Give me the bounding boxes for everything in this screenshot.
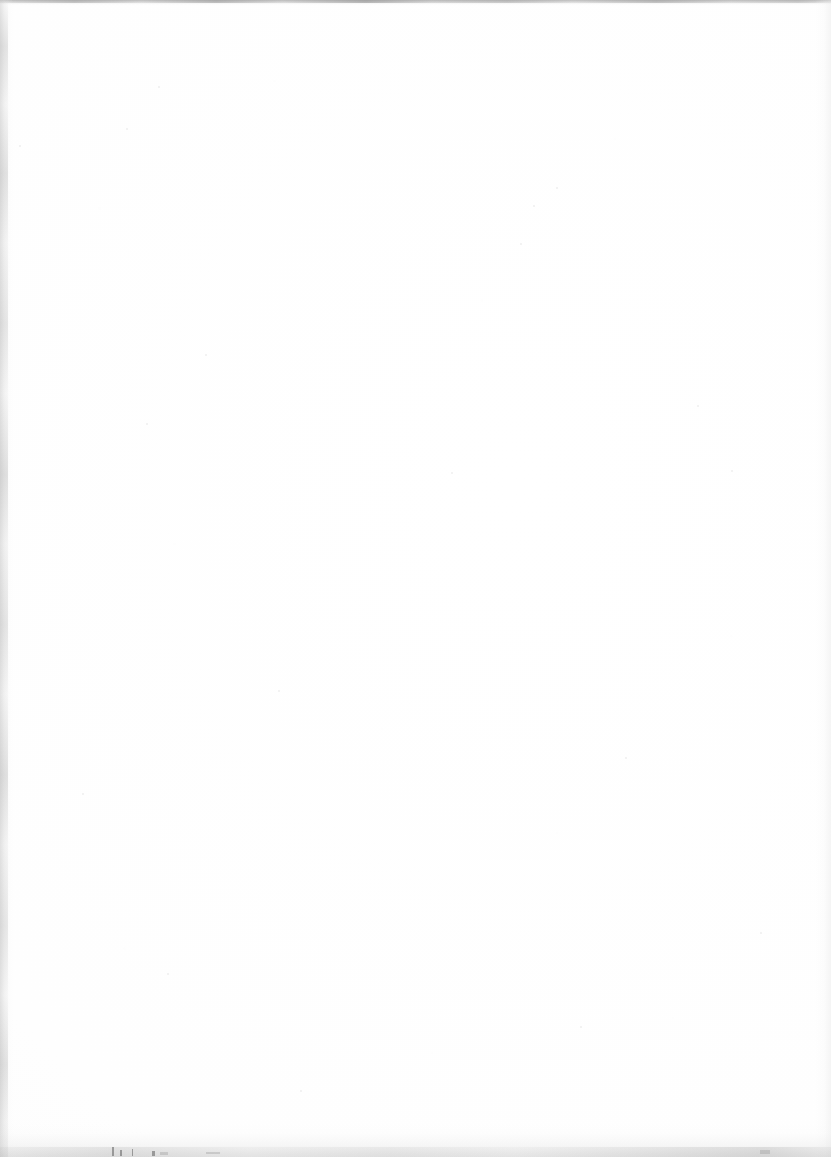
- dust-speck: [580, 1026, 582, 1028]
- page-content-area: [72, 70, 762, 1080]
- dust-speck: [205, 354, 207, 356]
- dust-speck: [19, 145, 21, 147]
- dust-speck: [300, 1090, 302, 1092]
- edge-mark: [760, 1150, 770, 1154]
- right-scan-falloff: [815, 0, 831, 1157]
- edge-mark: [152, 1151, 155, 1156]
- dust-speck: [533, 205, 535, 207]
- edge-mark: [206, 1152, 220, 1154]
- dust-speck: [451, 472, 453, 474]
- bottom-scan-edge: [0, 1123, 831, 1157]
- edge-mark: [120, 1150, 122, 1156]
- dust-speck: [556, 187, 558, 189]
- dust-speck: [126, 128, 128, 130]
- edge-mark: [132, 1149, 133, 1156]
- edge-mark: [112, 1147, 114, 1156]
- dust-speck: [625, 757, 627, 759]
- scanned-page: [0, 0, 831, 1157]
- dust-speck: [167, 973, 169, 975]
- top-scan-edge: [0, 0, 831, 5]
- edge-mark: [160, 1152, 168, 1155]
- dust-speck: [158, 86, 160, 88]
- dust-speck: [697, 405, 699, 407]
- dust-speck: [146, 423, 148, 425]
- dust-speck: [731, 470, 733, 472]
- dust-speck: [520, 243, 522, 245]
- left-gutter-band: [0, 0, 13, 1157]
- dust-speck: [82, 793, 84, 795]
- dust-speck: [278, 690, 280, 692]
- dust-speck: [760, 932, 762, 934]
